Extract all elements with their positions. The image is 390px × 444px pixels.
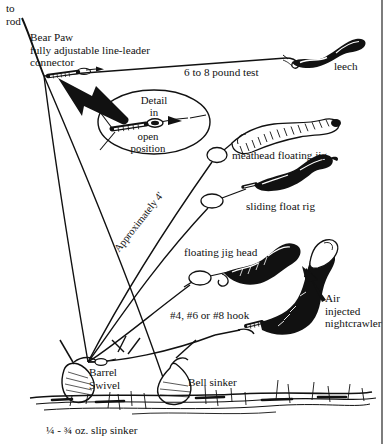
label-detail-2: in — [124, 106, 184, 118]
label-pound-test: 6 to 8 pound test — [184, 66, 259, 79]
bottom-rig-group — [30, 336, 376, 414]
label-detail-4: position — [112, 142, 184, 154]
label-barrel-swivel: Barrel Swivel — [89, 366, 120, 391]
label-to-rod: to rod — [6, 2, 21, 27]
label-floating-jig-head: floating jig head — [184, 246, 257, 259]
label-meathead-floating-jig: meathead floating jig — [232, 149, 327, 162]
label-bear-paw: Bear Paw fully adjustable line-leader co… — [30, 31, 150, 69]
label-leech: leech — [334, 60, 358, 73]
label-bell-sinker: Bell sinker — [188, 376, 237, 389]
label-detail-1: Detail — [124, 94, 184, 106]
label-detail-3: open — [118, 130, 178, 142]
label-hook-sizes: #4, #6 or #8 hook — [170, 309, 249, 322]
label-air-injected-nightcrawler: Air injected nightcrawler — [325, 292, 382, 330]
label-sliding-float-rig: sliding float rig — [246, 200, 315, 213]
figure-canvas: to rod Bear Paw fully adjustable line-le… — [0, 0, 390, 444]
label-slip-sinker: ¼ - ¾ oz. slip sinker — [46, 424, 137, 437]
